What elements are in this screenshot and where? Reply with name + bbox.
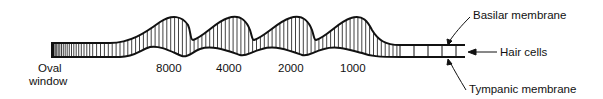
hair-cells-arrowhead	[468, 49, 476, 55]
cochlea-diagram: 8000 4000 2000 1000 Oval window Basilar …	[0, 0, 603, 99]
basilar-membrane-top-outline	[51, 17, 465, 45]
frequency-label-8000: 8000	[156, 62, 182, 74]
tympanic-membrane-leader-line	[450, 62, 466, 90]
tympanic-membrane-bottom-outline	[51, 47, 465, 57]
frequency-label-4000: 4000	[216, 62, 242, 74]
tympanic-membrane-label: Tympanic membrane	[469, 83, 576, 95]
hair-cells-label: Hair cells	[500, 46, 548, 58]
oval-window-label-line1: Oval	[38, 62, 62, 74]
basilar-membrane-leader-line	[449, 17, 470, 42]
oval-window-label-line2: window	[28, 75, 68, 87]
basilar-membrane-label: Basilar membrane	[473, 9, 566, 21]
frequency-label-2000: 2000	[278, 62, 304, 74]
oval-window-edge	[51, 43, 54, 57]
frequency-label-1000: 1000	[340, 62, 366, 74]
tympanic-membrane-arrowhead	[447, 59, 452, 65]
